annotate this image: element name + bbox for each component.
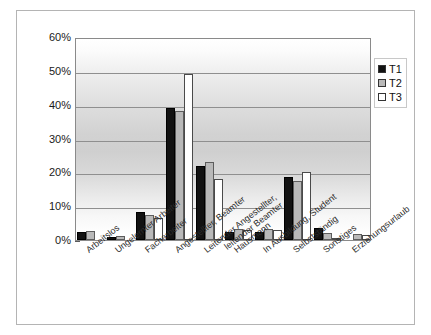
legend-label: T2 (389, 78, 402, 89)
y-axis-tick-label: 60% (25, 32, 71, 43)
legend-label: T1 (389, 64, 402, 75)
bar-group (106, 39, 136, 240)
bar-t1 (77, 232, 86, 240)
x-axis-labels: ArbeitslosUngelernter ArbeiterFacharbeit… (75, 243, 375, 335)
legend-swatch-icon (378, 79, 386, 87)
y-axis-tick-label: 20% (25, 167, 71, 178)
figure-frame: 0%10%20%30%40%50%60% ArbeitslosUngelernt… (16, 10, 415, 325)
bar-group (342, 39, 371, 240)
legend-item: T1 (378, 62, 402, 76)
y-axis-tick-label: 30% (25, 134, 71, 145)
bar-t1 (166, 108, 175, 240)
bar-t3 (302, 172, 311, 240)
bar-chart-figure: 0%10%20%30%40%50%60% ArbeitslosUngelernt… (0, 0, 431, 335)
y-axis-tick (75, 241, 80, 242)
y-axis: 0%10%20%30%40%50%60% (23, 38, 71, 241)
bar-t3 (184, 74, 193, 240)
y-axis-tick-label: 40% (25, 100, 71, 111)
legend-swatch-icon (378, 93, 386, 101)
bar-group (76, 39, 106, 240)
y-axis-tick-label: 10% (25, 201, 71, 212)
legend: T1T2T3 (374, 58, 407, 108)
legend-swatch-icon (378, 65, 386, 73)
legend-item: T2 (378, 76, 402, 90)
legend-item: T3 (378, 90, 402, 104)
legend-label: T3 (389, 92, 402, 103)
y-axis-tick-label: 50% (25, 66, 71, 77)
y-axis-tick-label: 0% (25, 235, 71, 246)
